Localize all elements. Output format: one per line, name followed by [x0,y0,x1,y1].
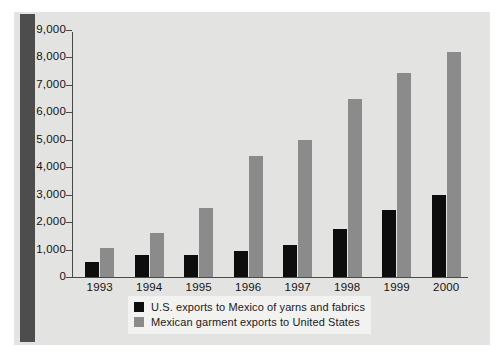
bar-us-exports-1999 [382,210,396,277]
y-axis-tick [66,222,72,223]
bar-us-exports-1993 [85,262,99,277]
bar-mexican-exports-1999 [397,73,411,277]
y-axis-tick [66,250,72,251]
y-axis-tick-label: 8,000 [0,51,66,63]
chart-legend: U.S. exports to Mexico of yarns and fabr… [128,296,371,334]
bar-us-exports-2000 [432,195,446,277]
y-axis-labels: 9,0008,0007,0006,0005,0004,0003,0002,000… [0,30,66,280]
y-axis-tick [66,112,72,113]
y-axis-tick-label: 3,000 [0,189,66,201]
x-axis-label-2000: 2000 [426,281,466,293]
legend-item-us-exports: U.S. exports to Mexico of yarns and fabr… [134,300,365,314]
bar-mexican-exports-1997 [298,140,312,277]
y-axis-tick [66,277,72,278]
bar-us-exports-1994 [135,255,149,277]
y-axis-tick-label: 6,000 [0,106,66,118]
y-axis-tick [66,30,72,31]
y-axis-tick-label: 4,000 [0,161,66,173]
y-axis-tick-label: 0 [0,271,66,283]
y-axis-tick [66,140,72,141]
x-axis-label-1998: 1998 [327,281,367,293]
bar-mexican-exports-1994 [150,233,164,277]
plot-area: 19931994199519961997199819992000 [72,30,470,280]
y-axis-tick-label: 1,000 [0,244,66,256]
y-axis-tick [66,195,72,196]
x-axis-label-1995: 1995 [179,281,219,293]
chart-figure: 9,0008,0007,0006,0005,0004,0003,0002,000… [0,0,504,359]
bar-us-exports-1995 [184,255,198,278]
x-axis-label-1993: 1993 [80,281,120,293]
x-axis-label-1999: 1999 [377,281,417,293]
y-axis-tick [66,57,72,58]
bar-us-exports-1997 [283,245,297,277]
legend-swatch-us-exports [134,302,144,312]
legend-label-us-exports: U.S. exports to Mexico of yarns and fabr… [151,301,365,313]
y-axis-tick-label: 5,000 [0,134,66,146]
bar-mexican-exports-1993 [100,248,114,277]
bar-mexican-exports-1996 [249,156,263,277]
legend-swatch-mexican-exports [134,317,144,327]
bar-mexican-exports-2000 [447,52,461,277]
x-axis-label-1994: 1994 [129,281,169,293]
y-axis-tick-label: 2,000 [0,216,66,228]
legend-item-mexican-exports: Mexican garment exports to United States [134,315,365,329]
y-axis-tick-label: 7,000 [0,79,66,91]
y-axis-tick-label: 9,000 [0,24,66,36]
x-axis-label-1996: 1996 [228,281,268,293]
y-axis-line [72,32,73,278]
bar-mexican-exports-1995 [199,208,213,277]
x-axis-label-1997: 1997 [278,281,318,293]
bar-mexican-exports-1998 [348,99,362,277]
legend-label-mexican-exports: Mexican garment exports to United States [151,316,360,328]
x-axis-line [72,277,468,278]
y-axis-tick [66,167,72,168]
bar-us-exports-1996 [234,251,248,277]
y-axis-tick [66,85,72,86]
bar-us-exports-1998 [333,229,347,277]
